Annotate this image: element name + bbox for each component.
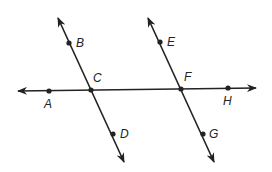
point-f-label: F [184,70,192,84]
lines-layer [18,18,256,162]
point-d-label: D [120,127,129,141]
point-g-dot [200,131,205,136]
point-c-label: C [93,71,102,85]
point-b-dot [66,40,71,45]
point-d-dot [110,131,115,136]
point-h-label: H [223,94,232,108]
point-e-label: E [167,35,176,49]
point-f-dot [178,86,183,91]
point-h-dot [225,85,230,90]
point-b-label: B [76,36,84,50]
transversal-line [18,88,256,91]
point-a-dot [46,88,51,93]
point-g-label: G [209,127,218,141]
diagram-canvas: ABCDEFGH [0,0,272,172]
point-c-dot [88,87,93,92]
point-a-label: A [43,97,52,111]
point-e-dot [157,39,162,44]
geometry-diagram: ABCDEFGH [0,0,272,172]
